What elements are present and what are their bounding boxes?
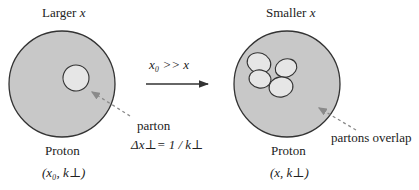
overlap-label: partons overlap	[331, 130, 412, 146]
diagram-canvas	[0, 0, 419, 190]
arrow-label: x₀ >> x	[149, 57, 189, 73]
parton-label: parton	[137, 118, 170, 134]
left-proton	[9, 31, 130, 137]
parton-size-formula: Δx⊥= 1 / k⊥	[131, 137, 203, 153]
right-title: Smaller x	[266, 5, 315, 21]
right-coords: (x, k⊥)	[270, 165, 309, 181]
left-coords: (x₀, k⊥)	[42, 165, 85, 181]
right-proton	[234, 31, 356, 137]
left-title: Larger x	[42, 5, 85, 21]
right-proton-label: Proton	[271, 143, 306, 159]
left-proton-label: Proton	[45, 143, 80, 159]
